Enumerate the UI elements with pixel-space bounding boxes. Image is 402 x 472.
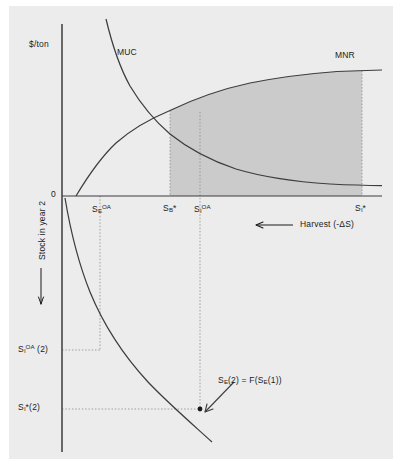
stock-transition-annotation: SE(2) = F(SE(1)) bbox=[218, 376, 282, 385]
y-tick-si-star-tail: *(2) bbox=[26, 402, 41, 412]
x-tick-label-si-oa: SIOA bbox=[194, 204, 211, 214]
annotation-tail2: (1)) bbox=[268, 375, 282, 385]
stock-transition-point bbox=[198, 407, 203, 412]
diagram-canvas bbox=[0, 0, 402, 472]
x-tick-label-se-oa: SEOA bbox=[92, 204, 111, 214]
mnr-curve-label: MNR bbox=[335, 51, 355, 60]
x-tick-label-si-star: SI* bbox=[355, 204, 366, 213]
muc-curve-label: MUC bbox=[117, 48, 137, 57]
x-tick-sb-tail: * bbox=[173, 203, 177, 213]
figure-root: $/ton 0 MUC MNR SEOA SB* SIOA SI* Harves… bbox=[0, 0, 402, 472]
annotation-tail: (2) = F(S bbox=[228, 375, 264, 385]
y-axis-label-upper: $/ton bbox=[29, 40, 49, 49]
x-tick-se-oa-sup: OA bbox=[102, 203, 111, 210]
x-tick-si-tail: * bbox=[363, 203, 367, 213]
y-tick-si-oa-sup: OA bbox=[26, 343, 35, 350]
x-tick-si-oa-sup: OA bbox=[202, 203, 211, 210]
origin-label: 0 bbox=[51, 190, 56, 199]
y-axis-label-lower: Stock in year 2 bbox=[38, 201, 47, 260]
y-tick-si-oa-tail: (2) bbox=[35, 344, 49, 354]
x-axis-label-harvest: Harvest (-ΔS) bbox=[300, 220, 354, 229]
y-tick-label-si-star-2: SI*(2) bbox=[18, 403, 40, 412]
y-tick-label-si-oa-2: SIOA (2) bbox=[18, 344, 48, 354]
x-tick-label-sb-star: SB* bbox=[163, 204, 177, 213]
